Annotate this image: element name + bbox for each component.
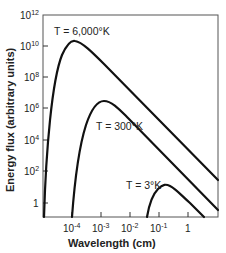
svg-text:10-2: 10-2 [121, 222, 138, 234]
x-tick-labels: 10-4 10-3 10-2 10-1 1 [63, 222, 191, 234]
label-6000K: T = 6,000°K [54, 25, 110, 37]
svg-text:108: 108 [24, 71, 39, 83]
blackbody-chart: 1012 1010 108 106 104 102 1 10-4 10-3 10… [0, 0, 226, 253]
svg-text:1: 1 [33, 198, 39, 209]
svg-text:1: 1 [185, 223, 191, 234]
y-tick-labels: 1012 1010 108 106 104 102 1 [20, 9, 39, 209]
label-3K: T = 3°K [126, 179, 161, 191]
svg-text:104: 104 [24, 134, 39, 146]
x-axis [72, 212, 188, 217]
svg-text:1012: 1012 [20, 9, 39, 21]
svg-text:10-4: 10-4 [63, 222, 80, 234]
svg-text:1010: 1010 [20, 40, 39, 52]
svg-text:10-3: 10-3 [92, 222, 109, 234]
x-axis-label: Wavelength (cm) [68, 237, 156, 249]
svg-text:10-1: 10-1 [150, 222, 167, 234]
label-300K: T = 300°K [96, 120, 143, 132]
svg-text:106: 106 [24, 102, 39, 114]
svg-text:102: 102 [24, 165, 39, 177]
y-axis-label: Energy flux (arbitrary units) [4, 47, 16, 192]
